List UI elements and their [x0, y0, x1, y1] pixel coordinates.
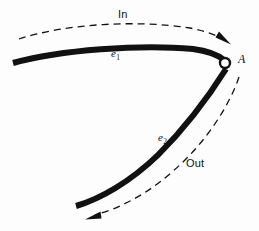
- out-direction-arrowhead: [85, 212, 102, 220]
- diagram-vector-layer: [0, 0, 259, 231]
- edge-e1-label: e1: [111, 48, 120, 59]
- vertex-a-circle: [220, 58, 230, 68]
- edge-e1-label-subscript: 1: [116, 53, 120, 62]
- in-direction-arrowhead: [216, 32, 232, 45]
- edge-e2-label-subscript: 2: [163, 137, 167, 146]
- in-direction-dashed-arc: [19, 24, 226, 41]
- vertex-a-label: A: [238, 53, 245, 65]
- edge-e2-label: e2: [158, 132, 167, 143]
- in-direction-label: In: [118, 9, 128, 20]
- diagram-canvas: In Out e1 e2 A: [0, 0, 259, 231]
- out-direction-label: Out: [186, 158, 204, 169]
- edge-e2-thick-curve: [76, 69, 226, 206]
